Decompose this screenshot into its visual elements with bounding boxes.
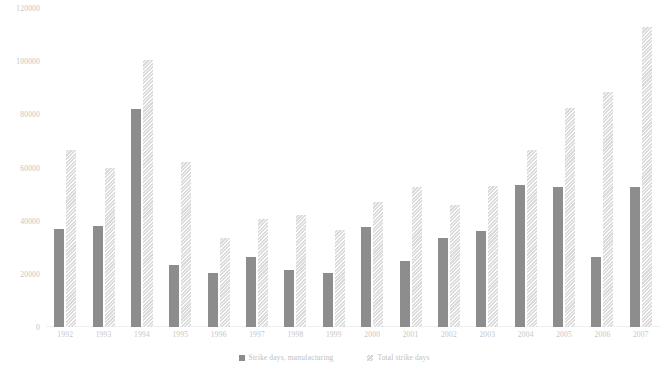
bar-strike-days-manufacturing bbox=[93, 226, 103, 327]
x-axis-tick-label: 2003 bbox=[479, 330, 495, 339]
x-axis-tick-label: 2006 bbox=[595, 330, 611, 339]
bar-total-strike-days bbox=[565, 108, 575, 327]
legend-swatch-icon bbox=[367, 355, 373, 361]
bar-strike-days-manufacturing bbox=[323, 273, 333, 327]
bar-strike-days-manufacturing bbox=[131, 109, 141, 327]
y-axis-tick-label: 60000 bbox=[20, 163, 40, 172]
bar-total-strike-days bbox=[335, 230, 345, 327]
bar-strike-days-manufacturing bbox=[400, 261, 410, 327]
x-axis: 1992199319941995199619971998199920002001… bbox=[46, 330, 660, 348]
bar-group bbox=[630, 8, 652, 327]
bar-group bbox=[93, 8, 115, 327]
bar-group bbox=[400, 8, 422, 327]
bar-total-strike-days bbox=[296, 215, 306, 327]
bar-group bbox=[169, 8, 191, 327]
bar-group bbox=[54, 8, 76, 327]
bar-strike-days-manufacturing bbox=[476, 231, 486, 327]
y-axis-tick-label: 80000 bbox=[20, 110, 40, 119]
bar-group bbox=[361, 8, 383, 327]
x-axis-tick-label: 2005 bbox=[556, 330, 572, 339]
x-axis-tick-label: 2004 bbox=[518, 330, 534, 339]
legend-item[interactable]: Total strike days bbox=[367, 353, 429, 362]
x-axis-tick-label: 1995 bbox=[172, 330, 188, 339]
bar-total-strike-days bbox=[143, 60, 153, 327]
legend-swatch-icon bbox=[239, 355, 245, 361]
chart-legend: Strike days, manufacturingTotal strike d… bbox=[0, 353, 668, 362]
bar-group bbox=[515, 8, 537, 327]
bar-group bbox=[246, 8, 268, 327]
x-axis-tick-label: 2001 bbox=[403, 330, 419, 339]
bar-strike-days-manufacturing bbox=[438, 238, 448, 327]
bar-strike-days-manufacturing bbox=[169, 265, 179, 327]
bar-strike-days-manufacturing bbox=[630, 187, 640, 327]
bar-group bbox=[323, 8, 345, 327]
bar-total-strike-days bbox=[258, 219, 268, 327]
x-axis-tick-label: 2007 bbox=[633, 330, 649, 339]
x-axis-tick-label: 1999 bbox=[326, 330, 342, 339]
bar-group bbox=[476, 8, 498, 327]
x-axis-tick-label: 1996 bbox=[211, 330, 227, 339]
bar-total-strike-days bbox=[373, 202, 383, 327]
y-axis-tick-label: 40000 bbox=[20, 216, 40, 225]
plot-area bbox=[46, 8, 660, 327]
bar-strike-days-manufacturing bbox=[54, 229, 64, 327]
bar-total-strike-days bbox=[66, 150, 76, 327]
y-axis-tick-label: 100000 bbox=[16, 57, 40, 66]
bar-strike-days-manufacturing bbox=[284, 270, 294, 327]
legend-item-label: Strike days, manufacturing bbox=[249, 353, 334, 362]
bar-group bbox=[438, 8, 460, 327]
x-axis-tick-label: 1998 bbox=[288, 330, 304, 339]
x-axis-tick-label: 1992 bbox=[57, 330, 73, 339]
bar-total-strike-days bbox=[488, 186, 498, 327]
bar-strike-days-manufacturing bbox=[208, 273, 218, 327]
bar-group bbox=[284, 8, 306, 327]
y-axis-tick-label: 0 bbox=[36, 323, 40, 332]
bar-strike-days-manufacturing bbox=[515, 185, 525, 327]
bar-group bbox=[208, 8, 230, 327]
bar-group bbox=[591, 8, 613, 327]
x-axis-tick-label: 1994 bbox=[134, 330, 150, 339]
bar-strike-days-manufacturing bbox=[553, 187, 563, 327]
bar-total-strike-days bbox=[220, 238, 230, 327]
y-axis-tick-label: 120000 bbox=[16, 4, 40, 13]
bar-group bbox=[131, 8, 153, 327]
bar-total-strike-days bbox=[603, 92, 613, 327]
bar-strike-days-manufacturing bbox=[246, 257, 256, 327]
legend-item[interactable]: Strike days, manufacturing bbox=[239, 353, 334, 362]
strike-days-bar-chart: 020000400006000080000100000120000 199219… bbox=[0, 0, 668, 379]
bar-total-strike-days bbox=[181, 162, 191, 327]
x-axis-tick-label: 2002 bbox=[441, 330, 457, 339]
y-axis-tick-label: 20000 bbox=[20, 269, 40, 278]
bar-total-strike-days bbox=[450, 205, 460, 327]
legend-item-label: Total strike days bbox=[377, 353, 429, 362]
y-axis: 020000400006000080000100000120000 bbox=[0, 0, 46, 340]
bar-group bbox=[553, 8, 575, 327]
bar-total-strike-days bbox=[412, 187, 422, 327]
bar-total-strike-days bbox=[642, 27, 652, 327]
bar-total-strike-days bbox=[527, 150, 537, 327]
bar-strike-days-manufacturing bbox=[361, 227, 371, 327]
x-axis-tick-label: 1993 bbox=[96, 330, 112, 339]
x-axis-tick-label: 1997 bbox=[249, 330, 265, 339]
bar-strike-days-manufacturing bbox=[591, 257, 601, 327]
bar-total-strike-days bbox=[105, 168, 115, 328]
x-axis-tick-label: 2000 bbox=[364, 330, 380, 339]
